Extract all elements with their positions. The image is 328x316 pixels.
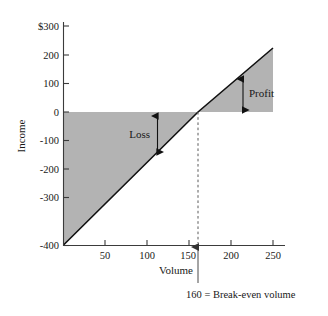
x-tick-label-150: 150 bbox=[180, 250, 196, 261]
y-tick-label-neg300: -300 bbox=[40, 192, 59, 203]
loss-label: Loss bbox=[129, 128, 150, 140]
x-tick-label-100: 100 bbox=[139, 250, 155, 261]
y-tick-label-0: 0 bbox=[54, 107, 59, 118]
break-even-note: 160 = Break-even volume bbox=[186, 289, 296, 300]
y-tick-label-neg400: -400 bbox=[40, 240, 59, 251]
x-tick-label-50: 50 bbox=[100, 250, 111, 261]
x-axis-title: Volume bbox=[159, 264, 193, 276]
y-tick-label-100: 100 bbox=[43, 78, 59, 89]
profit-label: Profit bbox=[249, 87, 274, 99]
y-tick-label-neg100: -100 bbox=[40, 135, 59, 146]
break-even-chart: $300 200 100 0 -100 -200 -300 -400 50 10… bbox=[0, 0, 328, 316]
y-axis-title: Income bbox=[15, 119, 27, 152]
chart-canvas: $300 200 100 0 -100 -200 -300 -400 50 10… bbox=[0, 0, 328, 316]
y-tick-label-300: $300 bbox=[38, 21, 59, 32]
y-tick-label-neg200: -200 bbox=[40, 164, 59, 175]
x-tick-label-250: 250 bbox=[265, 250, 281, 261]
x-tick-label-200: 200 bbox=[223, 250, 239, 261]
y-tick-label-200: 200 bbox=[43, 50, 59, 61]
